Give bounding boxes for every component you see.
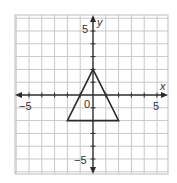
x-tick-label-5: 5 — [153, 100, 159, 112]
y-axis-arrow-down — [90, 167, 96, 174]
y-tick-label-neg5: −5 — [74, 154, 87, 166]
x-tick-label-neg5: −5 — [19, 100, 32, 112]
x-axis-arrow-right — [161, 92, 168, 98]
y-tick-label-5: 5 — [82, 23, 88, 35]
coordinate-plane: x y 0 −5 5 5 −5 — [0, 0, 177, 183]
x-axis-label: x — [159, 80, 166, 92]
origin-label: 0 — [84, 98, 90, 110]
